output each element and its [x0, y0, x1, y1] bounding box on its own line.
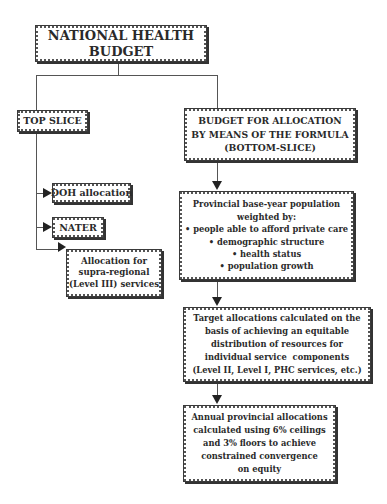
provincial-to-target-arrow-icon — [212, 297, 222, 306]
provincial-to-target-connector — [217, 281, 218, 298]
branch-horizontal-connector — [36, 75, 218, 76]
provincial-population-box: Provincial base-year population weighted… — [179, 191, 354, 280]
bottom-to-provincial-connector — [217, 162, 218, 182]
top-slice-label: TOP SLICE — [23, 115, 82, 126]
bottom-slice-line-2: BY MEANS OF THE FORMULA — [191, 128, 348, 141]
root-line-2: BUDGET — [89, 44, 153, 60]
bottom-slice-line-3: (BOTTOM-SLICE) — [224, 141, 316, 154]
supra-regional-line-1: Allocation for — [81, 256, 147, 268]
top-slice-box: TOP SLICE — [17, 110, 88, 132]
annual-allocations-box: Annual provincial allocations calculated… — [183, 405, 336, 482]
annual-line-4: constrained convergence — [201, 450, 318, 463]
nater-box: NATER — [52, 217, 104, 238]
provincial-line-1: Provincial base-year population — [193, 198, 340, 210]
provincial-line-2: weighted by: — [237, 211, 296, 223]
supra-regional-arrow-icon — [58, 242, 66, 252]
provincial-bullet-private-care: • people able to afford private care — [185, 223, 348, 235]
supra-regional-allocation-box: Allocation for supra-regional (Level III… — [66, 249, 162, 297]
target-line-5: (Level II, Level I, PHC services, etc.) — [192, 364, 361, 377]
bottom-to-provincial-arrow-icon — [212, 181, 222, 190]
target-to-annual-arrow-icon — [212, 395, 222, 404]
root-line-1: NATIONAL HEALTH — [48, 28, 194, 44]
target-line-4: individual service components — [205, 351, 349, 364]
bottom-slice-box: BUDGET FOR ALLOCATION BY MEANS OF THE FO… — [184, 108, 356, 161]
provincial-bullet-demographic: • demographic structure — [209, 236, 325, 248]
doh-allocation-box: DOH allocation — [52, 183, 131, 203]
annual-line-5: on equity — [238, 463, 281, 476]
provincial-bullet-health-status: • health status — [232, 248, 301, 260]
supra-regional-line-2: supra-regional — [79, 267, 150, 279]
annual-line-3: and 3% floors to achieve — [203, 437, 316, 450]
target-line-2: basis of achieving an equitable — [205, 325, 349, 338]
root-stem-connector — [118, 62, 119, 75]
supra-regional-connector — [36, 249, 58, 250]
target-line-1: Target allocations calculated on the — [193, 312, 360, 325]
annual-line-2: calculated using 6% ceilings — [193, 424, 325, 437]
left-branch-connector — [36, 75, 37, 110]
nater-arrow-icon — [43, 222, 52, 232]
national-health-budget-box: NATIONAL HEALTH BUDGET — [35, 25, 207, 62]
target-line-3: distribution of resources for — [211, 338, 343, 351]
annual-line-1: Annual provincial allocations — [191, 411, 327, 424]
right-branch-connector — [217, 75, 218, 108]
target-allocations-box: Target allocations calculated on the bas… — [183, 307, 371, 382]
bottom-slice-line-1: BUDGET FOR ALLOCATION — [198, 114, 342, 127]
top-slice-trunk-connector — [36, 132, 37, 249]
doh-allocation-label: DOH allocation — [51, 187, 133, 198]
nater-label: NATER — [59, 222, 97, 233]
supra-regional-line-3: (Level III) services — [69, 279, 159, 291]
provincial-bullet-population-growth: • population growth — [219, 260, 313, 272]
